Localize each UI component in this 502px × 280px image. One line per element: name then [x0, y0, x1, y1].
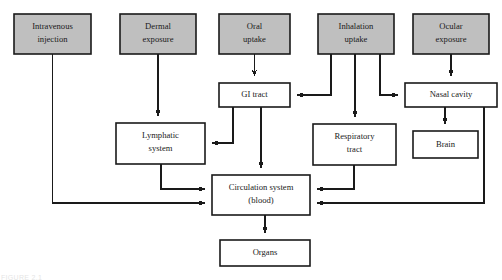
node-respiratory-tract-label-line1: Respiratory [334, 131, 375, 141]
flowchart-figure: Intravenous injection Dermal exposure Or… [0, 0, 502, 280]
node-brain[interactable]: Brain [413, 131, 478, 158]
figure-caption-fragment: FIGURE 2.1 [1, 274, 42, 280]
node-lymphatic-system-label-line2: system [149, 143, 173, 153]
node-respiratory-tract-label-line2: tract [347, 144, 363, 154]
node-lymphatic-system-label-line1: Lymphatic [142, 130, 179, 140]
node-oral-uptake-label-line1: Oral [247, 21, 263, 31]
node-layer: Intravenous injection Dermal exposure Or… [14, 14, 497, 266]
edge-inhalation-to-gi-tract [297, 54, 331, 95]
node-nasal-cavity[interactable]: Nasal cavity [405, 83, 497, 107]
node-inhalation-uptake-label-line1: Inhalation [339, 21, 375, 31]
node-intravenous-injection[interactable]: Intravenous injection [14, 14, 91, 54]
node-dermal-exposure-label-line1: Dermal [145, 21, 171, 31]
node-dermal-exposure[interactable]: Dermal exposure [120, 14, 196, 54]
node-oral-uptake[interactable]: Oral uptake [219, 14, 290, 54]
edge-inhalation-to-nasal-cavity [380, 54, 398, 95]
flowchart-canvas: Intravenous injection Dermal exposure Or… [0, 0, 502, 280]
node-respiratory-tract[interactable]: Respiratory tract [313, 124, 396, 165]
edge-respiratory-to-circulation [317, 165, 354, 189]
node-circulation-system-label-line2: (blood) [248, 195, 273, 205]
node-inhalation-uptake-label-line2: uptake [345, 34, 368, 44]
node-ocular-exposure-label-line1: Ocular [439, 21, 463, 31]
node-gi-tract[interactable]: GI tract [219, 83, 290, 107]
node-nasal-cavity-label: Nasal cavity [430, 89, 473, 99]
edge-gi-tract-to-lymphatic [212, 107, 233, 143]
node-dermal-exposure-label-line2: exposure [142, 34, 173, 44]
node-ocular-exposure-label-line2: exposure [435, 34, 466, 44]
node-intravenous-injection-label-line1: Intravenous [32, 21, 73, 31]
node-circulation-system[interactable]: Circulation system (blood) [212, 175, 310, 215]
node-circulation-system-label-line1: Circulation system [229, 182, 294, 192]
edge-lymphatic-to-circulation [161, 164, 205, 189]
node-organs[interactable]: Organs [220, 240, 310, 266]
node-organs-label: Organs [253, 247, 278, 257]
node-lymphatic-system[interactable]: Lymphatic system [116, 123, 205, 164]
node-gi-tract-label: GI tract [241, 89, 268, 99]
node-ocular-exposure[interactable]: Ocular exposure [413, 14, 489, 54]
node-oral-uptake-label-line2: uptake [243, 34, 266, 44]
node-intravenous-injection-label-line2: injection [37, 34, 68, 44]
node-inhalation-uptake[interactable]: Inhalation uptake [318, 14, 394, 54]
node-brain-label: Brain [436, 139, 456, 149]
